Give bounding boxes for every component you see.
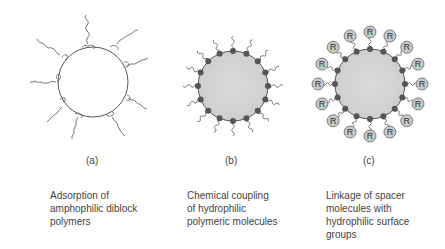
panel-c-caption: Linkage of spacer molecules with hydroph… [326,189,409,241]
svg-text:R: R [404,42,411,52]
svg-text:R: R [315,79,322,89]
svg-text:R: R [319,59,326,69]
svg-text:R: R [330,42,337,52]
svg-text:R: R [347,127,354,137]
panel-c-label: (c) [363,155,375,166]
svg-text:R: R [387,127,394,137]
panel-b-caption: Chemical coupling of hydrophilic polymer… [187,189,278,228]
panel-b-label: (b) [225,155,237,166]
svg-text:R: R [404,116,411,126]
svg-text:R: R [347,31,354,41]
panel-a-caption: Adsorption of amphophilic diblock polyme… [50,189,137,228]
svg-text:R: R [319,99,326,109]
svg-text:R: R [367,27,374,37]
svg-text:R: R [415,59,422,69]
svg-text:R: R [415,99,422,109]
svg-text:R: R [367,131,374,141]
svg-text:R: R [419,79,426,89]
svg-text:R: R [387,31,394,41]
panel-a-particle [30,15,148,139]
svg-text:R: R [330,116,337,126]
panel-a-label: (a) [86,155,98,166]
